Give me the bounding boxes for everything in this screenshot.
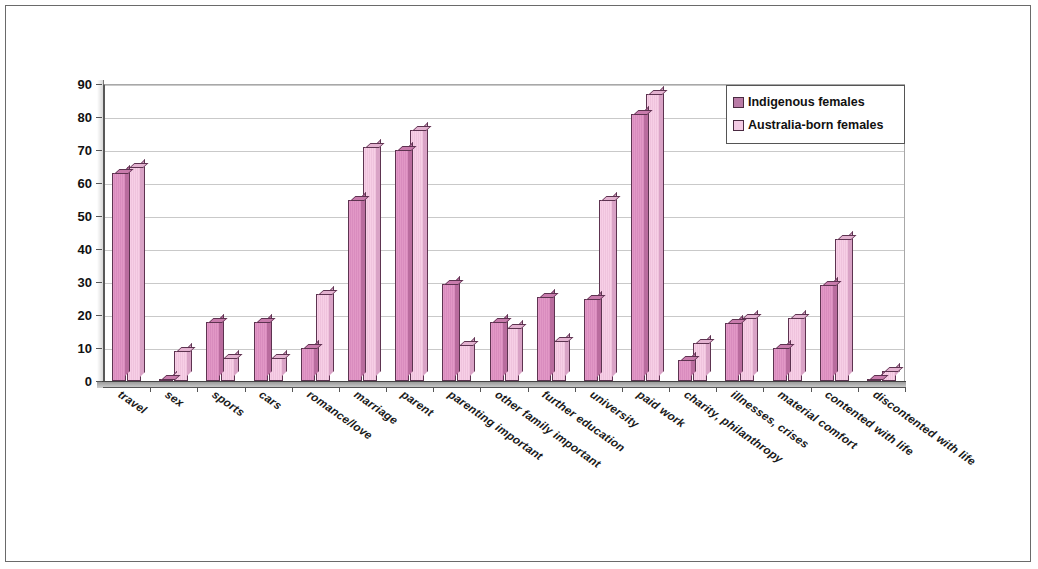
bar [773,348,787,381]
bar-side [140,159,145,377]
bar-chart: 0102030405060708090 travelsexsportscarsr… [0,0,1038,569]
gridline [105,217,904,218]
bar [537,297,551,381]
bar [631,114,645,381]
bar-top-cap [601,196,621,201]
x-axis-tick-mark [433,388,434,392]
x-axis-tick-label: sex [163,388,186,409]
bar-side [738,315,743,376]
legend-item-label: Australia-born females [748,119,883,132]
x-axis-tick-mark [292,388,293,392]
y-axis-tick-mark [96,348,102,349]
x-axis-tick-label: parent [399,388,436,419]
x-axis-tick-mark [811,388,812,392]
bar-face [222,359,234,380]
bar-side [848,231,853,376]
bar-side [423,122,428,376]
y-axis-tick-label: 0 [62,375,92,388]
bar-side [833,277,838,376]
legend-item-label: Indigenous females [748,96,865,109]
bar [490,322,504,381]
bar-face [679,361,691,380]
x-axis-tick-label: sports [210,388,247,419]
bar-face [396,151,408,380]
y-axis-tick-mark [96,216,102,217]
x-axis-tick-mark [763,388,764,392]
x-axis-tick-mark [245,388,246,392]
y-axis-tick-label: 50 [62,210,92,223]
bar-top-cap [648,90,668,95]
x-axis-tick-mark [716,388,717,392]
bar-side [329,286,334,376]
bar [206,322,220,381]
bar-side [801,310,806,376]
bar-top-cap [884,367,904,372]
bar-top-cap [318,290,338,295]
bar-face [741,319,753,380]
x-axis-tick-mark [858,388,859,392]
y-axis-tick-mark [96,315,102,316]
bar-top-cap [539,293,559,298]
legend-item[interactable]: Australia-born females [733,114,898,137]
bar-top-cap [256,318,276,323]
bar-top-cap [695,339,715,344]
bar-side [753,310,758,376]
x-axis-tick-mark [528,388,529,392]
bar-face [207,323,219,380]
y-axis-tick-label: 20 [62,309,92,322]
x-axis-tick-mark [339,388,340,392]
bar-side [408,142,413,376]
bar-side [125,165,130,376]
y-axis-tick-mark [96,84,102,85]
bar-top-cap [459,341,479,346]
y-axis-tick-mark [96,117,102,118]
x-axis-tick-label: material comfort [776,388,859,451]
bar-top-cap [492,318,512,323]
y-axis-tick-mark [96,183,102,184]
bar-top-cap [790,314,810,319]
bar [584,299,598,382]
legend-swatch-icon [733,97,744,108]
x-axis-tick-mark [386,388,387,392]
bar [395,150,409,381]
bar-face [349,201,361,381]
x-axis-tick-label: travel [116,388,149,416]
bar [254,322,268,381]
bar-face [113,174,125,380]
y-axis-tick-label: 90 [62,78,92,91]
bar-face [585,300,597,381]
bar-face [632,115,644,380]
bar-face [255,323,267,380]
bar-face [726,324,738,380]
bar-face [302,349,314,380]
bar-top-cap [554,337,574,342]
bar [867,379,881,381]
bar-top-cap [365,143,385,148]
y-axis-tick-mark [96,381,102,382]
bar-top-cap [412,126,432,131]
y-axis-tick-label: 10 [62,342,92,355]
x-axis-tick-label: paid work [635,388,687,430]
gridline [105,151,904,152]
bar-side [612,192,617,377]
bar-side [644,106,649,376]
bar-top-cap [208,318,228,323]
y-axis-tick-mark [96,150,102,151]
x-axis-tick-mark [575,388,576,392]
bar-top-cap [507,324,527,329]
x-axis-tick-label: contented with life [824,388,917,458]
gridline [105,184,904,185]
bar [442,284,456,381]
x-axis-tick-mark [905,388,906,392]
legend-item[interactable]: Indigenous females [733,91,898,114]
y-axis-tick-mark [96,249,102,250]
bar-top-cap [837,235,857,240]
bar [112,173,126,381]
x-axis-tick-mark [150,388,151,392]
gridline [105,250,904,251]
bar-face [694,344,706,380]
x-axis-tick-mark [480,388,481,392]
bar-top-cap [223,354,243,359]
x-axis-tick-label: further education [541,388,628,454]
bar-side [659,86,664,376]
